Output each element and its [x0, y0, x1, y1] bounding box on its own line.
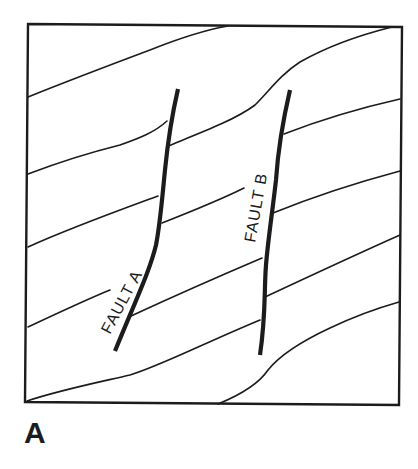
bed-line-3-east — [284, 99, 400, 134]
bed-line-2-west — [28, 121, 167, 174]
fault-map-diagram: FAULT A FAULT B A — [0, 0, 418, 469]
bed-line-2-middle — [168, 27, 392, 146]
bed-line-6-east — [218, 302, 399, 404]
bed-line-5-west — [27, 320, 260, 401]
map-frame — [25, 24, 402, 405]
bed-line-1 — [28, 26, 228, 97]
bed-line-3-middle — [162, 188, 244, 223]
bed-line-5-east — [265, 235, 400, 297]
bed-line-3-west — [28, 196, 158, 247]
panel-label: A — [24, 416, 46, 449]
bed-line-4-east — [273, 171, 400, 213]
fault-b-line — [260, 90, 290, 355]
fault-a-label: FAULT A — [98, 267, 146, 336]
bedding-lines — [27, 26, 400, 404]
bed-line-4-west — [28, 290, 110, 327]
fault-b-label: FAULT B — [241, 171, 270, 243]
